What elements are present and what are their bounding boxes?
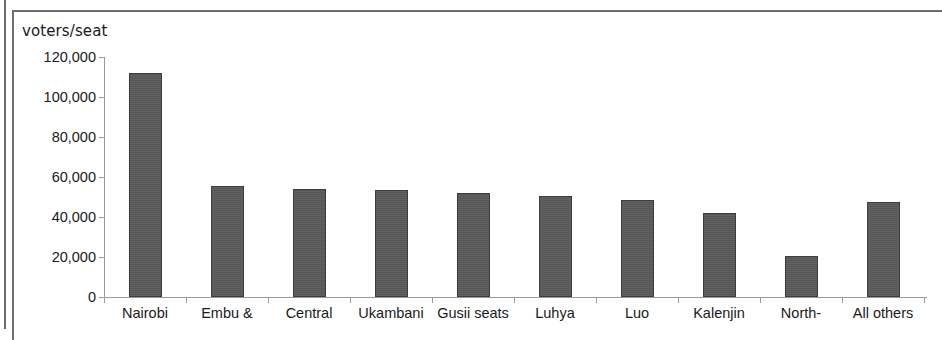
x-axis-tick-mark [186,297,187,303]
bar [785,256,818,297]
bar [211,186,244,297]
y-axis-tick-mark [99,257,105,258]
y-axis-tick-label: 0 [10,289,96,305]
bar [867,202,900,297]
y-axis-tick-label: 80,000 [10,129,96,145]
y-axis-tick-label: 60,000 [10,169,96,185]
x-axis-tick-mark [678,297,679,303]
y-axis-tick-mark [99,137,105,138]
x-axis-tick-mark [432,297,433,303]
y-axis-tick-label: 120,000 [10,49,96,65]
x-axis-tick-mark [104,297,105,303]
x-axis-tick-mark [350,297,351,303]
bar [621,200,654,297]
bar [457,193,490,297]
bar [375,190,408,297]
y-axis-tick-label: 100,000 [10,89,96,105]
category-axis-line [104,297,927,298]
y-axis-tick-mark [99,177,105,178]
x-axis-tick-mark [924,297,925,303]
x-axis-tick-mark [596,297,597,303]
y-axis-tick-label: 40,000 [10,209,96,225]
x-axis-category-label: All others [833,305,933,321]
x-axis-tick-mark [268,297,269,303]
bar [293,189,326,297]
y-axis-tick-label: 20,000 [10,249,96,265]
y-axis-tick-mark [99,57,105,58]
y-axis-tick-mark [99,97,105,98]
bar [539,196,572,297]
bar [703,213,736,297]
x-axis-tick-mark [760,297,761,303]
x-axis-tick-mark [514,297,515,303]
bar [129,73,162,297]
x-axis-tick-mark [842,297,843,303]
y-axis-tick-mark [99,217,105,218]
